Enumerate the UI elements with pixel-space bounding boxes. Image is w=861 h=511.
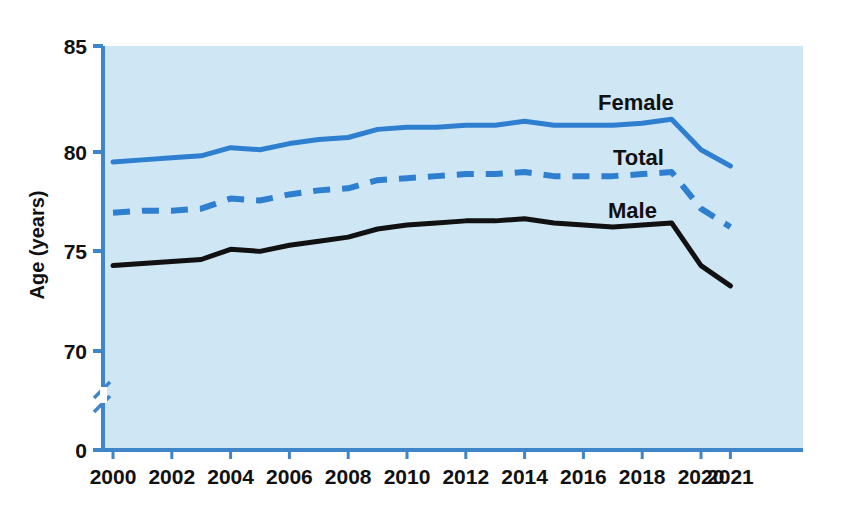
series-label-total: Total (613, 145, 664, 170)
y-tick-label: 70 (64, 340, 87, 363)
y-tick-label: 80 (64, 141, 87, 164)
x-tick-label: 2010 (384, 465, 431, 488)
x-tick-label: 2021 (707, 465, 754, 488)
line-chart: 070758085 200020022004200620082010201220… (0, 0, 861, 511)
x-axis-tick-labels: 2000200220042006200820102012201420162018… (90, 465, 754, 488)
x-tick-label: 2006 (266, 465, 313, 488)
x-tick-label: 2008 (325, 465, 372, 488)
y-axis-tick-labels: 070758085 (64, 35, 88, 462)
y-tick-label: 85 (64, 35, 88, 58)
x-tick-label: 2004 (207, 465, 254, 488)
chart-container: 070758085 200020022004200620082010201220… (0, 0, 861, 511)
x-tick-label: 2014 (501, 465, 548, 488)
y-tick-label: 75 (64, 240, 88, 263)
plot-area-background (103, 46, 803, 450)
x-tick-label: 2018 (619, 465, 666, 488)
x-tick-label: 2002 (148, 465, 195, 488)
y-axis-title: Age (years) (26, 191, 48, 300)
x-tick-label: 2016 (560, 465, 607, 488)
y-tick-label: 0 (75, 439, 87, 462)
series-label-female: Female (598, 90, 674, 115)
x-tick-label: 2012 (442, 465, 489, 488)
x-tick-label: 2000 (90, 465, 137, 488)
series-label-male: Male (608, 198, 657, 223)
